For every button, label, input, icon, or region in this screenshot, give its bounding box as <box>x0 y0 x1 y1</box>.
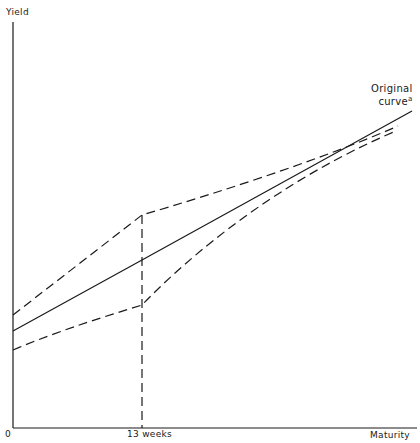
lower-shifted-curve <box>13 131 396 350</box>
original-curve <box>13 111 412 331</box>
origin-label: 0 <box>5 429 11 439</box>
annotation-line-2: curvea <box>371 94 413 107</box>
annotation-footnote-mark: a <box>408 95 413 103</box>
y-axis-label: Yield <box>6 7 29 17</box>
yield-curve-chart <box>0 0 420 443</box>
annotation-line-1: Original <box>371 83 413 94</box>
original-curve-annotation: Original curvea <box>371 83 413 107</box>
upper-shifted-curve <box>13 126 398 315</box>
annotation-curve-text: curve <box>378 96 408 107</box>
x-axis-label: Maturity <box>370 430 410 440</box>
tick-13-weeks-label: 13 weeks <box>127 429 172 439</box>
